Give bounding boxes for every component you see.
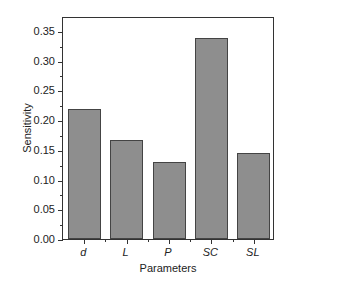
- x-minor-tick: [105, 239, 106, 242]
- y-minor-tick: [60, 166, 63, 167]
- y-tick: [58, 32, 63, 33]
- x-tick-label: d: [80, 246, 86, 258]
- x-tick: [254, 239, 255, 244]
- x-tick-label: SL: [246, 246, 259, 258]
- y-tick: [58, 151, 63, 152]
- bar-l: [110, 140, 143, 239]
- y-tick: [58, 121, 63, 122]
- y-tick-label: 0.15: [34, 144, 55, 156]
- y-tick-label: 0.20: [34, 114, 55, 126]
- x-tick: [127, 239, 128, 244]
- y-tick-label: 0.10: [34, 174, 55, 186]
- x-axis-title: Parameters: [140, 262, 197, 274]
- y-tick-label: 0.35: [34, 25, 55, 37]
- y-minor-tick: [60, 136, 63, 137]
- y-tick-label: 0.30: [34, 55, 55, 67]
- y-tick: [58, 62, 63, 63]
- y-tick: [58, 181, 63, 182]
- x-tick: [211, 239, 212, 244]
- y-tick-label: 0.05: [34, 203, 55, 215]
- bar-d: [68, 109, 101, 239]
- y-tick: [58, 210, 63, 211]
- x-tick: [84, 239, 85, 244]
- y-minor-tick: [60, 195, 63, 196]
- x-tick-label: SC: [203, 246, 218, 258]
- x-minor-tick: [233, 239, 234, 242]
- bar-p: [153, 162, 186, 239]
- bar-sl: [237, 153, 270, 239]
- y-tick-label: 0.00: [34, 233, 55, 245]
- x-tick: [169, 239, 170, 244]
- y-minor-tick: [60, 106, 63, 107]
- y-minor-tick: [60, 47, 63, 48]
- plot-area: [62, 17, 274, 240]
- y-minor-tick: [60, 76, 63, 77]
- y-axis-title: Sensitivity: [21, 103, 33, 153]
- y-tick: [58, 240, 63, 241]
- x-tick-label: L: [123, 246, 129, 258]
- y-tick-label: 0.25: [34, 84, 55, 96]
- x-tick-label: P: [164, 246, 171, 258]
- x-minor-tick: [148, 239, 149, 242]
- y-tick: [58, 91, 63, 92]
- y-minor-tick: [60, 225, 63, 226]
- x-minor-tick: [190, 239, 191, 242]
- bar-sc: [195, 38, 228, 239]
